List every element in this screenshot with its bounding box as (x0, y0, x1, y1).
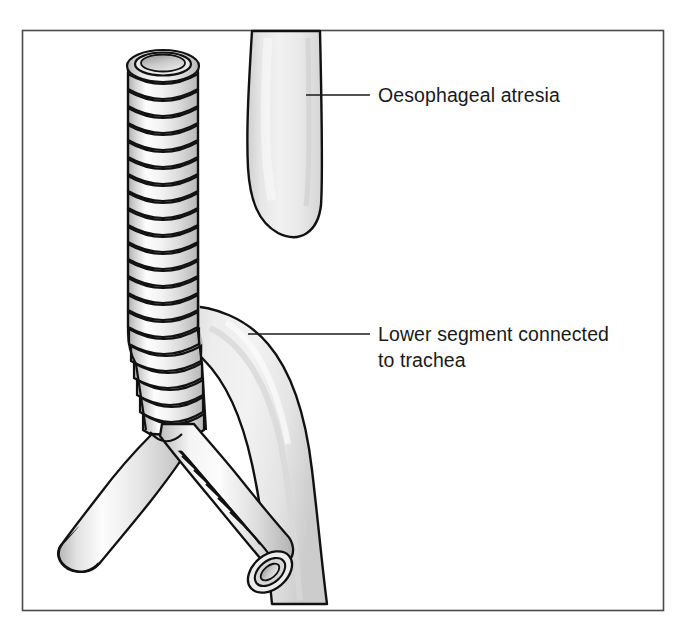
label-text-oesophageal-atresia: Oesophageal atresia (378, 84, 560, 106)
upper-oesophageal-pouch (247, 31, 322, 237)
figure-container: Oesophageal atresia Lower segment connec… (0, 0, 686, 627)
trachea-lumen-opening (127, 50, 199, 82)
anatomical-illustration: Oesophageal atresia Lower segment connec… (0, 0, 686, 627)
label-text-lower-segment-line2: to trachea (378, 349, 466, 371)
trachea (127, 50, 206, 440)
label-text-lower-segment-line1: Lower segment connected (378, 323, 609, 345)
